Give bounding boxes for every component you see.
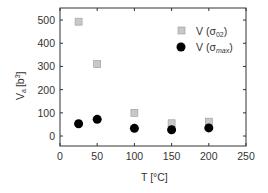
legend-circle-marker	[177, 43, 186, 52]
y-tick-label: 200	[37, 84, 55, 96]
legend-square-marker	[178, 27, 185, 34]
y-axis-label: Va[b3]	[14, 71, 27, 100]
legend-label-sigmamax: V (σmax)	[196, 41, 233, 54]
square-marker	[131, 109, 138, 116]
x-axis-label: T [°C]	[141, 171, 168, 183]
square-marker	[94, 61, 101, 68]
legend: V (σ02) V (σmax)	[177, 25, 233, 54]
x-tick-label: 50	[91, 150, 103, 162]
y-tick-label: 0	[49, 130, 55, 142]
x-tick-label: 0	[57, 150, 63, 162]
circle-marker	[74, 119, 83, 128]
plot-border	[60, 8, 246, 146]
y-tick-label: 400	[37, 37, 55, 49]
circle-marker	[130, 124, 139, 133]
x-tick-label: 250	[237, 150, 255, 162]
circle-marker	[93, 115, 102, 124]
y-tick-label: 100	[37, 107, 55, 119]
circle-marker	[204, 123, 213, 132]
x-tick-label: 200	[200, 150, 218, 162]
data-points	[74, 18, 213, 134]
scatter-chart: 0501001502002500100200300400500 V (σ02) …	[0, 0, 268, 193]
legend-label-sigma02: V (σ02)	[196, 25, 227, 38]
x-tick-label: 100	[126, 150, 144, 162]
x-tick-label: 150	[163, 150, 181, 162]
plot-frame	[60, 8, 246, 146]
y-tick-label: 300	[37, 60, 55, 72]
y-tick-label: 500	[37, 14, 55, 26]
square-marker	[75, 18, 82, 25]
circle-marker	[167, 125, 176, 134]
